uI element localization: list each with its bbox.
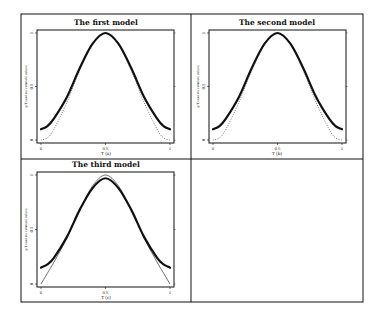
x-tick-label: 1 [169, 290, 171, 295]
x-tick-label: 1 [169, 146, 171, 151]
x-tick-label: 0 [212, 146, 215, 151]
y-tick-label: 1 [29, 174, 34, 176]
true-curve [213, 33, 342, 140]
x-axis-label: T (b) [272, 151, 282, 156]
estimate-curve [213, 33, 342, 129]
y-axis-label: g(T) and its estimate values [196, 65, 200, 108]
panel-title: The second model [239, 18, 315, 27]
y-tick-label: 0.5 [29, 226, 34, 233]
y-tick-label: 1 [201, 32, 206, 34]
chart-panel-a: The first model00.5100.51T (a)g(T) and i… [24, 18, 176, 156]
estimate-curve [41, 33, 170, 129]
x-tick-label: 0 [40, 146, 43, 151]
plot-area [37, 30, 174, 143]
y-axis-label: g(T) and its estimate values [24, 208, 28, 251]
x-tick-label: 0 [40, 290, 43, 295]
true-curve [41, 33, 170, 140]
chart-panel-c: The third model00.5100.51T (c)g(T) and i… [24, 160, 176, 300]
x-axis-label: T (a) [101, 151, 111, 156]
y-tick-label: 0 [29, 138, 34, 141]
plot-area [209, 30, 346, 143]
x-axis-label: T (c) [101, 295, 111, 300]
y-tick-label: 1 [29, 32, 34, 34]
y-tick-label: 0 [201, 138, 206, 141]
x-tick-label: 1 [341, 146, 343, 151]
y-tick-label: 0.5 [201, 83, 206, 90]
y-tick-label: 0.5 [29, 83, 34, 90]
panel-title: The third model [72, 160, 140, 169]
true-curve [41, 175, 170, 284]
panel-title: The first model [74, 18, 138, 27]
plot-area [37, 172, 174, 287]
figure: The first model00.5100.51T (a)g(T) and i… [0, 0, 381, 318]
y-tick-label: 0 [29, 282, 34, 285]
estimate-curve [41, 178, 170, 267]
y-axis-label: g(T) and its estimate values [24, 65, 28, 108]
chart-panel-b: The second model00.5100.51T (b)g(T) and … [196, 18, 348, 156]
outer-frame [21, 14, 363, 302]
